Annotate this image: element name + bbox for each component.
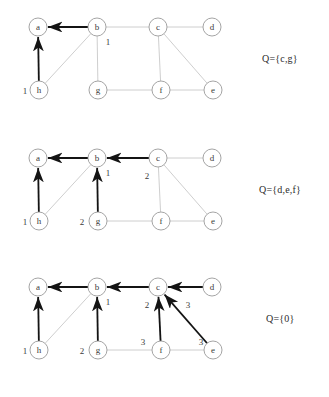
node-label-f: f [160,85,163,95]
tree-edge-h-to-a [38,168,39,212]
node-label-c: c [156,153,160,163]
node-label-h: h [37,216,42,226]
node-label-a: a [36,153,40,163]
node-label-e: e [211,216,215,226]
node-label-g: g [96,85,101,95]
distance-label-6: 3 [199,337,204,347]
node-label-d: d [210,282,215,292]
panel-3-queue-label: Q={0} [266,313,294,324]
distance-label-3: 2 [80,217,85,227]
node-label-f: f [160,216,163,226]
node-label-g: g [96,345,101,355]
node-label-b: b [95,153,100,163]
distance-label-1: 1 [23,86,28,96]
node-label-a: a [36,22,40,32]
panel-2: abcdhgfe1212Q={d,e,f} [0,131,329,263]
node-label-c: c [156,282,160,292]
base-edges [45,27,207,90]
distance-label-0: 1 [106,168,111,178]
distance-label-0: 1 [106,37,111,47]
node-label-b: b [95,22,100,32]
distance-label-2: 1 [23,217,28,227]
distance-label-0: 1 [106,297,111,307]
base-edges [45,158,207,221]
edge-c-f [158,36,160,81]
distance-label-3: 1 [23,346,28,356]
panel-2-graph: abcdhgfe1212 [0,131,329,263]
tree-edge-h-to-a [38,297,39,341]
node-label-g: g [96,216,101,226]
node-label-f: f [160,345,163,355]
panel-1-graph: abcdhgfe11 [0,0,329,132]
node-label-d: d [210,153,215,163]
edge-c-e [164,34,207,83]
tree-edge-h-to-a [38,37,39,81]
edge-c-e [164,165,207,214]
tree-edges [38,287,207,343]
distance-label-2: 3 [186,300,191,310]
nodes: abcdhgfe [29,149,222,230]
node-label-c: c [156,22,160,32]
distance-label-5: 3 [141,337,146,347]
base-edges [45,287,207,350]
edge-h-b [45,294,91,344]
panel-1-queue-label: Q={c,g} [262,53,298,64]
node-label-h: h [37,85,42,95]
node-label-b: b [95,282,100,292]
node-label-h: h [37,345,42,355]
panel-2-queue-label: Q={d,e,f} [259,184,301,195]
node-label-d: d [210,22,215,32]
nodes: abcdhgfe [29,18,222,99]
tree-edges [38,27,88,81]
nodes: abcdhgfe [29,278,222,359]
panel-3-graph: abcdhgfe1231233 [0,260,329,392]
node-label-e: e [211,345,215,355]
panel-1: abcdhgfe11Q={c,g} [0,0,329,132]
node-label-e: e [211,85,215,95]
tree-edge-f-to-c [158,297,160,341]
distance-labels: 1231233 [23,297,204,356]
tree-edge-g-to-b [97,297,98,341]
distance-label-1: 2 [145,171,150,181]
edge-h-b [45,34,91,84]
panel-3: abcdhgfe1231233Q={0} [0,260,329,392]
tree-edge-g-to-b [97,168,98,212]
edge-c-f [158,167,160,212]
node-label-a: a [36,282,40,292]
edge-b-g [97,36,98,81]
distance-label-1: 2 [145,300,150,310]
distance-label-4: 2 [80,346,85,356]
edge-h-b [45,165,91,215]
